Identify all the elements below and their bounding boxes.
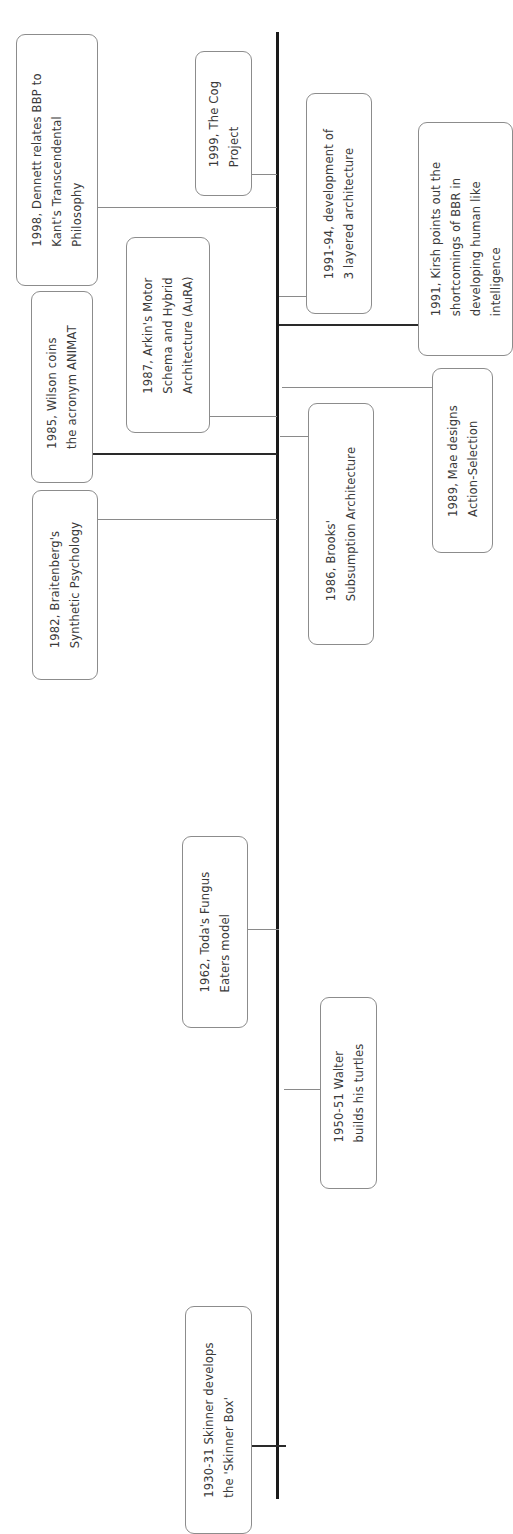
connector-braitenberg [97, 519, 277, 520]
event-label: 1982, Braitenberg's Synthetic Psychology [45, 522, 85, 648]
event-box-mae: 1989, Mae designs Action-Selection [432, 368, 493, 553]
connector-cog [252, 174, 277, 175]
event-box-brooks: 1986, Brooks' Subsumption Architecture [308, 403, 374, 645]
event-label: 1999, The Cog Project [204, 80, 244, 167]
event-label: 1962, Toda's Fungus Eaters model [195, 872, 235, 993]
timeline-axis [276, 32, 279, 1499]
event-label: 1998, Dennett relates BBP to Kant's Tran… [27, 73, 87, 246]
event-box-skinner: 1930-31 Skinner develops the 'Skinner Bo… [185, 1306, 252, 1534]
event-box-walter: 1950-51 Walter builds his turtles [320, 997, 377, 1189]
event-box-cog: 1999, The Cog Project [195, 51, 252, 196]
event-box-arkin: 1987, Arkin's Motor Schema and Hybrid Ar… [126, 237, 210, 433]
connector-skinner [252, 1445, 286, 1447]
event-label: 1989, Mae designs Action-Selection [443, 405, 483, 517]
event-label: 1991-94, development of 3 layered archit… [319, 128, 359, 279]
event-box-braitenberg: 1982, Braitenberg's Synthetic Psychology [32, 490, 98, 680]
connector-dennett [98, 207, 277, 208]
event-box-kirsh: 1991, Kirsh points out the shortcomings … [418, 122, 513, 356]
event-label: 1986, Brooks' Subsumption Architecture [321, 447, 361, 602]
event-label: 1930-31 Skinner develops the 'Skinner Bo… [199, 1342, 239, 1497]
timeline-diagram: 1998, Dennett relates BBP to Kant's Tran… [0, 0, 513, 1534]
event-box-dennett: 1998, Dennett relates BBP to Kant's Tran… [16, 34, 98, 286]
connector-mae [282, 387, 432, 388]
connector-kirsh [279, 324, 423, 326]
event-label: 1985, Wilson coins the acronym ANIMAT [42, 325, 82, 449]
connector-wilson [93, 453, 277, 455]
event-box-toda: 1962, Toda's Fungus Eaters model [182, 836, 248, 1028]
connector-walter [284, 1089, 320, 1090]
event-label: 1950-51 Walter builds his turtles [329, 1044, 369, 1143]
connector-brooks [280, 436, 310, 437]
connector-toda [248, 929, 279, 930]
event-box-three-layer: 1991-94, development of 3 layered archit… [306, 93, 372, 314]
event-label: 1987, Arkin's Motor Schema and Hybrid Ar… [138, 276, 198, 393]
event-label: 1991, Kirsh points out the shortcomings … [426, 162, 506, 317]
event-box-wilson: 1985, Wilson coins the acronym ANIMAT [31, 291, 93, 483]
connector-three-layer [279, 296, 306, 297]
connector-arkin [210, 416, 277, 417]
